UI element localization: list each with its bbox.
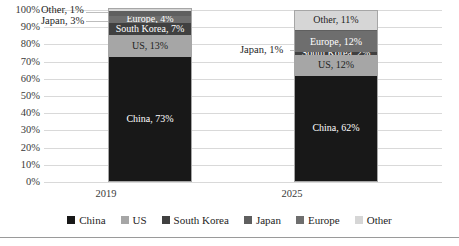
category-label-2025: 2025 [232,188,352,199]
callout-leader-line-0 [86,12,108,13]
legend-swatch-icon [67,216,75,224]
callout-label-0: Other, 1% [41,4,84,16]
gridline-60 [44,79,442,80]
y-axis-tick-40: 40% [0,108,40,118]
y-axis-labels: 100%90%80%70%60%50%40%30%20%10%0% [0,10,40,182]
legend-swatch-icon [244,216,252,224]
y-axis-tick-60: 60% [0,74,40,84]
data-label: Other, 11% [313,15,358,25]
y-axis-tick-30: 30% [0,125,40,135]
y-axis-tick-100: 100% [0,5,40,15]
data-label: Europe, 12% [310,37,362,47]
callout-label-2: Japan, 1% [240,44,283,56]
y-axis-tick-70: 70% [0,57,40,67]
footer-rule [0,237,459,238]
legend-label: Europe [308,215,340,226]
bar-2025[interactable]: Other, 11%Europe, 12%South Korea, 2%US, … [294,10,378,182]
legend-label: US [133,215,147,226]
y-axis-tick-50: 50% [0,91,40,101]
y-axis-tick-80: 80% [0,39,40,49]
gridline-0 [44,182,442,183]
callout-leader-line-2 [290,50,294,51]
gridline-10 [44,165,442,166]
gridline-90 [44,27,442,28]
legend-label: Other [367,215,392,226]
data-label: China, 73% [126,114,173,124]
bar-segment-us[interactable]: US, 12% [295,55,377,75]
data-label: Europe, 4% [126,16,173,23]
gridline-100 [44,10,442,11]
y-axis-tick-0: 0% [0,177,40,187]
bar-segment-europe[interactable]: Europe, 4% [109,16,191,23]
category-label-2019: 2019 [46,188,166,199]
chart-legend: ChinaUSSouth KoreaJapanEuropeOther [0,211,459,229]
gridline-70 [44,62,442,63]
bar-segment-china[interactable]: China, 73% [109,57,191,181]
legend-item-south-korea[interactable]: South Korea [162,215,229,226]
bar-segment-china[interactable]: China, 62% [295,76,377,181]
bar-segment-europe[interactable]: Europe, 12% [295,31,377,51]
legend-label: Japan [256,215,281,226]
bar-segment-us[interactable]: US, 13% [109,35,191,57]
legend-swatch-icon [121,216,129,224]
legend-label: South Korea [174,215,229,226]
data-label: US, 13% [132,41,168,51]
legend-item-europe[interactable]: Europe [296,215,340,226]
legend-swatch-icon [296,216,304,224]
legend-swatch-icon [162,216,170,224]
gridline-50 [44,96,442,97]
plot-area: Europe, 4%South Korea, 7%US, 13%China, 7… [44,10,442,182]
bar-segment-other[interactable]: Other, 11% [295,11,377,30]
callout-label-1: Japan, 3% [41,15,84,27]
data-label: China, 62% [312,123,359,133]
y-axis-tick-20: 20% [0,143,40,153]
gridline-40 [44,113,442,114]
y-axis-tick-90: 90% [0,22,40,32]
bar-2019[interactable]: Europe, 4%South Korea, 7%US, 13%China, 7… [108,8,192,182]
y-axis-tick-10: 10% [0,160,40,170]
legend-label: China [79,215,105,226]
bar-segment-south-korea[interactable]: South Korea, 7% [109,23,191,35]
legend-swatch-icon [355,216,363,224]
gridline-30 [44,130,442,131]
legend-item-japan[interactable]: Japan [244,215,281,226]
data-label: South Korea, 7% [116,24,185,34]
stacked-bar-chart: 100%90%80%70%60%50%40%30%20%10%0% Europe… [0,0,459,246]
legend-item-us[interactable]: US [121,215,147,226]
legend-item-other[interactable]: Other [355,215,392,226]
legend-item-china[interactable]: China [67,215,105,226]
data-label: US, 12% [318,60,354,70]
callout-leader-line-1 [86,21,108,22]
gridline-20 [44,148,442,149]
